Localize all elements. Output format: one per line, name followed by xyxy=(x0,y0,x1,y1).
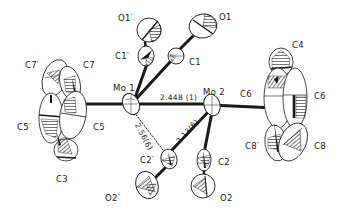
atom-c2p xyxy=(159,147,180,170)
label-c7: C7 xyxy=(83,61,95,70)
cp-ring-left xyxy=(37,56,90,161)
atom-o1p xyxy=(137,18,161,42)
label-c5: C5 xyxy=(93,123,105,132)
label-o1: O1 xyxy=(219,13,232,22)
molecule-drawing xyxy=(0,0,344,220)
label-c6: C6 xyxy=(314,92,326,101)
atom-c1p xyxy=(138,46,154,66)
bond-distance-mo1-mo2: 2.448 (1) xyxy=(160,94,197,102)
bond-mo2-c2 xyxy=(205,112,212,148)
label-c8: C8 xyxy=(314,142,326,151)
atom-o2p xyxy=(132,168,162,202)
label-mo1: Mo 1 xyxy=(113,84,135,93)
label-c7p: C7′ xyxy=(25,61,39,70)
label-c6p: C6′ xyxy=(240,90,254,99)
atom-c2 xyxy=(197,149,211,171)
label-c5p: C5′ xyxy=(17,123,31,132)
label-c1: C1 xyxy=(189,58,201,67)
label-mo2: Mo 2 xyxy=(203,88,225,97)
ortep-diagram: O1′ O1 C1′ C1 C7′ C7 Mo 1 Mo 2 C4 C6′ C6… xyxy=(0,0,344,220)
cp-ring-right xyxy=(263,48,314,166)
label-c1p: C1′ xyxy=(115,52,129,61)
label-c2p: C2′ xyxy=(140,156,154,165)
label-o1p: O1′ xyxy=(118,14,133,23)
atom-o2 xyxy=(191,174,215,198)
label-c8p: C8′ xyxy=(245,142,259,151)
atom-c1 xyxy=(168,48,184,64)
label-o2: O2 xyxy=(220,194,233,203)
label-o2p: O2′ xyxy=(105,194,120,203)
label-c3: C3 xyxy=(56,175,68,184)
label-c2: C2 xyxy=(218,158,230,167)
label-c4: C4 xyxy=(292,41,304,50)
